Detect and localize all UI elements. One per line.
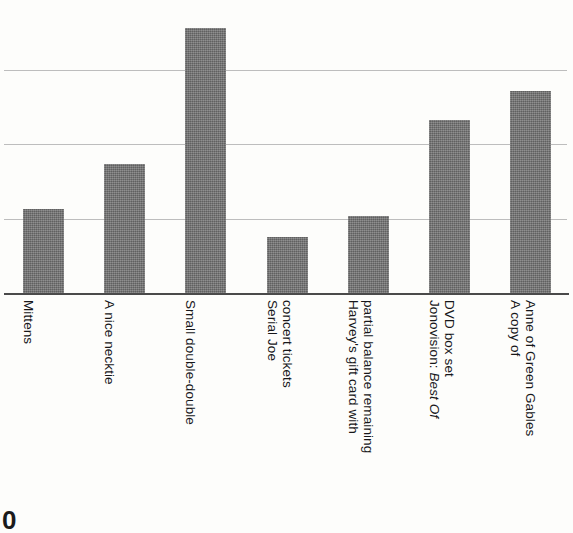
bar-necktie	[104, 164, 145, 293]
label-run: concert tickets	[280, 300, 295, 388]
label-run: DVD box set	[442, 300, 457, 377]
category-label-jonovision-line2: DVD box set	[442, 300, 458, 377]
label-run: Small double-double	[183, 300, 198, 425]
label-run: Jonovision:	[427, 300, 442, 373]
category-label-harveys-line2: partial balance remaining	[360, 300, 376, 453]
bar-jonovision	[429, 120, 470, 293]
category-label-harveys-line1: Harvey's gift card with	[345, 300, 361, 434]
label-run: Best Of	[427, 373, 442, 419]
plot-area	[0, 0, 573, 296]
category-label-serialjoe-line2: concert tickets	[279, 300, 295, 388]
bar-double	[185, 28, 226, 293]
category-label-annegables-line1: A copy of	[508, 300, 524, 356]
category-label-necktie: A nice necktie	[102, 300, 118, 385]
label-run: Anne of Green Gables	[523, 300, 538, 436]
bar-mittens	[23, 209, 64, 293]
category-label-double: Small double-double	[183, 300, 199, 425]
x-axis-line	[4, 293, 569, 295]
bar-harveys	[348, 216, 389, 293]
label-run: A nice necktie	[102, 300, 117, 385]
bar-serialjoe	[267, 237, 308, 293]
category-label-annegables-line2: Anne of Green Gables	[523, 300, 539, 436]
category-labels: MittensA nice necktieSmall double-double…	[0, 296, 573, 524]
label-run: Serial Joe	[265, 300, 280, 361]
gridline-1	[4, 219, 567, 220]
label-run: Harvey's gift card with	[346, 300, 361, 434]
bar-annegables	[510, 91, 551, 293]
label-run: Mittens	[21, 300, 36, 344]
category-label-serialjoe-line1: Serial Joe	[264, 300, 280, 361]
category-label-mittens: Mittens	[21, 300, 37, 344]
category-label-jonovision-line1: Jonovision: Best Of	[427, 300, 443, 418]
label-run: A copy of	[508, 300, 523, 356]
page-marker: 0	[2, 507, 16, 533]
gridline-3	[4, 70, 567, 71]
gridline-2	[4, 144, 567, 145]
label-run: partial balance remaining	[361, 300, 376, 453]
